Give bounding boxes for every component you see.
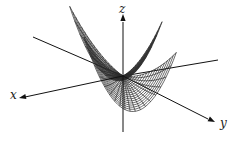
y-arrow-icon: [208, 117, 215, 122]
axes-back: [33, 37, 218, 76]
x-axis-label: x: [10, 89, 17, 101]
x-arrow-icon: [19, 94, 26, 99]
y-axis-label: y: [220, 117, 227, 129]
surface-plot: [0, 0, 230, 151]
z-axis-label: z: [119, 3, 125, 15]
